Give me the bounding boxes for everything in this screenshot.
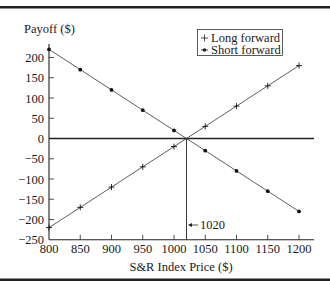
y-tick-label: 100 xyxy=(25,92,44,106)
x-tick-label: 800 xyxy=(40,242,59,256)
x-tick-label: 1200 xyxy=(287,242,312,256)
x-tick-label: 850 xyxy=(71,242,90,256)
x-tick-label: 1050 xyxy=(193,242,218,256)
plus-marker-icon xyxy=(234,103,240,109)
dot-marker-icon xyxy=(141,108,145,112)
axes: 200150100500−50−100−150−200−250800850900… xyxy=(18,44,314,256)
plus-marker-icon xyxy=(296,63,302,69)
top-rule xyxy=(0,6,330,9)
legend-label-short: Short forward xyxy=(211,43,282,57)
dot-marker-icon xyxy=(235,169,239,173)
y-tick-label: −200 xyxy=(18,213,44,227)
legend: Long forward Short forward xyxy=(198,30,283,58)
y-tick-label: 150 xyxy=(25,71,44,85)
chart-svg: Payoff ($) 200150100500−50−100−150−200−2… xyxy=(0,0,330,285)
y-axis-title: Payoff ($) xyxy=(24,22,75,36)
plus-marker-icon xyxy=(46,225,52,231)
x-tick-label: 950 xyxy=(133,242,152,256)
plus-marker-icon xyxy=(77,204,83,210)
plus-marker-icon xyxy=(140,164,146,170)
dot-marker-icon xyxy=(203,149,207,153)
y-tick-label: 50 xyxy=(32,112,45,126)
breakeven-annotation: 1020 xyxy=(188,218,225,232)
x-tick-label: 1000 xyxy=(162,242,187,256)
y-tick-label: −150 xyxy=(18,193,44,207)
x-tick-label: 1150 xyxy=(255,242,280,256)
plus-marker-icon xyxy=(202,123,208,129)
y-tick-label: −100 xyxy=(18,173,44,187)
annotation-label: 1020 xyxy=(200,218,225,232)
dot-marker-icon xyxy=(78,68,82,72)
x-axis-title: S&R Index Price ($) xyxy=(129,260,232,274)
y-tick-label: −50 xyxy=(24,152,44,166)
y-tick-label: 200 xyxy=(25,51,44,65)
chart-figure: Payoff ($) 200150100500−50−100−150−200−2… xyxy=(0,0,330,285)
arrow-left-icon xyxy=(188,223,192,227)
dot-marker-icon xyxy=(266,189,270,193)
x-tick-label: 1100 xyxy=(224,242,249,256)
bottom-rule xyxy=(0,279,330,282)
dot-marker-icon xyxy=(172,129,176,133)
dot-marker-icon xyxy=(110,88,114,92)
plus-marker-icon xyxy=(265,83,271,89)
plus-marker-icon xyxy=(109,184,115,190)
x-tick-label: 900 xyxy=(102,242,121,256)
dot-marker-icon xyxy=(47,48,51,52)
dot-marker-icon xyxy=(297,210,301,214)
y-tick-label: 0 xyxy=(38,132,44,146)
plus-marker-icon xyxy=(171,144,177,150)
